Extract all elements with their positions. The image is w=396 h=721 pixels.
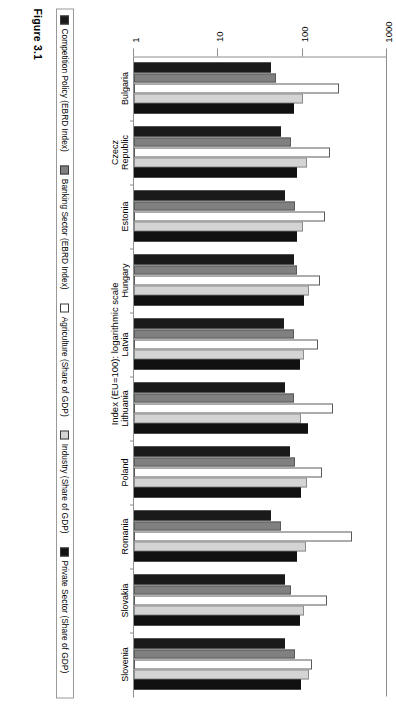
bar-agriculture-share-of-gdp-bulgaria — [134, 83, 339, 93]
bar-private-sector-share-of-gdp-lithuania — [134, 423, 308, 433]
axis-tick-label-text: 10 — [214, 31, 225, 42]
legend-item-label: Industry (Share of GDP) — [60, 443, 70, 533]
axis-tick-label-text: 100 — [299, 26, 310, 42]
legend-item-label: Agriculture (Share of GDP) — [60, 316, 70, 416]
category-label-text: Estonia — [120, 181, 130, 251]
bar-competition-policy-ebrd-index-lithuania — [134, 382, 285, 392]
legend-swatch-icon — [61, 547, 70, 556]
category-label-lithuania: Lithuania — [120, 373, 130, 443]
category-separator — [130, 376, 134, 377]
bar-private-sector-share-of-gdp-czecz-republic — [134, 167, 297, 177]
category-label-slovenia: Slovenia — [120, 629, 130, 699]
bar-competition-policy-ebrd-index-poland — [134, 446, 290, 456]
legend-item-label: Private Sector (Share of GDP) — [60, 560, 70, 673]
legend-swatch-icon — [61, 165, 70, 174]
legend-item-industry-share-of-gdp[interactable]: Industry (Share of GDP) — [60, 430, 70, 533]
bar-banking-sector-ebrd-index-poland — [134, 457, 295, 467]
bar-competition-policy-ebrd-index-hungary — [134, 254, 294, 264]
bar-industry-share-of-gdp-slovenia — [134, 669, 309, 679]
bar-competition-policy-ebrd-index-latvia — [134, 318, 284, 328]
bar-competition-policy-ebrd-index-bulgaria — [134, 62, 271, 72]
category-label-text: Lithuania — [120, 373, 130, 443]
category-separator — [130, 120, 134, 121]
axis-tick-label-text: 1 — [130, 37, 141, 42]
category-label-text: Bulgaria — [120, 53, 130, 123]
legend-item-private-sector-share-of-gdp[interactable]: Private Sector (Share of GDP) — [60, 547, 70, 673]
bar-industry-share-of-gdp-lithuania — [134, 413, 301, 423]
bar-competition-policy-ebrd-index-estonia — [134, 190, 285, 200]
bar-private-sector-share-of-gdp-slovenia — [134, 679, 301, 689]
category-separator — [130, 184, 134, 185]
value-axis-title-text: Index (EU=100): logarithmic scale — [109, 282, 120, 425]
bar-industry-share-of-gdp-slovakia — [134, 605, 304, 615]
category-separator — [130, 440, 134, 441]
bar-private-sector-share-of-gdp-latvia — [134, 359, 300, 369]
axis-tick-label: 10 — [214, 2, 225, 42]
legend-swatch-icon — [61, 303, 70, 312]
bar-industry-share-of-gdp-latvia — [134, 349, 304, 359]
bar-banking-sector-ebrd-index-slovakia — [134, 585, 291, 595]
bar-private-sector-share-of-gdp-bulgaria — [134, 103, 294, 113]
bar-agriculture-share-of-gdp-latvia — [134, 339, 318, 349]
axis-tick-mark — [133, 48, 134, 56]
figure-rotation-wrapper: 1000100101 BulgariaRepublicCzeczEstoniaH… — [0, 0, 396, 721]
category-label-latvia: Latvia — [120, 309, 130, 379]
bar-industry-share-of-gdp-romania — [134, 541, 306, 551]
category-separator — [130, 568, 134, 569]
category-label-text: Latvia — [120, 309, 130, 379]
bar-agriculture-share-of-gdp-lithuania — [134, 403, 333, 413]
bar-banking-sector-ebrd-index-bulgaria — [134, 73, 276, 83]
category-label-text: Romania — [120, 501, 130, 571]
legend-item-competition-policy-ebrd-index[interactable]: Competition Policy (EBRD Index) — [60, 15, 70, 151]
category-label-text: Poland — [120, 437, 130, 507]
axis-tick-mark — [302, 48, 303, 56]
axis-tick-mark — [386, 48, 387, 56]
bar-banking-sector-ebrd-index-estonia — [134, 201, 295, 211]
value-axis-title: Index (EU=100): logarithmic scale — [109, 8, 120, 698]
bar-private-sector-share-of-gdp-romania — [134, 551, 297, 561]
bar-banking-sector-ebrd-index-czecz-republic — [134, 137, 291, 147]
bar-banking-sector-ebrd-index-latvia — [134, 329, 294, 339]
figure-3-1: 1000100101 BulgariaRepublicCzeczEstoniaH… — [0, 0, 396, 721]
bar-industry-share-of-gdp-czecz-republic — [134, 157, 307, 167]
category-label-estonia: Estonia — [120, 181, 130, 251]
category-separator — [130, 248, 134, 249]
legend-item-label: Banking Sector (EBRD Index) — [60, 178, 70, 289]
bar-competition-policy-ebrd-index-romania — [134, 510, 271, 520]
bar-agriculture-share-of-gdp-romania — [134, 531, 352, 541]
axis-tick-label-text: 1000 — [383, 21, 394, 42]
legend-swatch-icon — [61, 15, 70, 24]
category-separator — [130, 504, 134, 505]
legend-item-agriculture-share-of-gdp[interactable]: Agriculture (Share of GDP) — [60, 303, 70, 416]
category-label-text: Slovenia — [120, 629, 130, 699]
bar-agriculture-share-of-gdp-czecz-republic — [134, 147, 330, 157]
bar-banking-sector-ebrd-index-slovenia — [134, 649, 295, 659]
bar-industry-share-of-gdp-bulgaria — [134, 93, 303, 103]
bar-competition-policy-ebrd-index-czecz-republic — [134, 126, 281, 136]
axis-tick-label: 1000 — [383, 2, 394, 42]
category-label-poland: Poland — [120, 437, 130, 507]
category-label-slovakia: Slovakia — [120, 565, 130, 635]
axis-tick-label: 100 — [299, 2, 310, 42]
bar-banking-sector-ebrd-index-lithuania — [134, 393, 294, 403]
category-label-bulgaria: Bulgaria — [120, 53, 130, 123]
figure-caption: Figure 3.1 — [32, 8, 44, 60]
bar-banking-sector-ebrd-index-romania — [134, 521, 281, 531]
bar-agriculture-share-of-gdp-estonia — [134, 211, 325, 221]
bar-private-sector-share-of-gdp-hungary — [134, 295, 304, 305]
bar-agriculture-share-of-gdp-slovenia — [134, 659, 312, 669]
bar-agriculture-share-of-gdp-poland — [134, 467, 322, 477]
bar-banking-sector-ebrd-index-hungary — [134, 265, 297, 275]
bar-competition-policy-ebrd-index-slovakia — [134, 574, 285, 584]
category-label-hungary: Hungary — [120, 245, 130, 315]
axis-tick-label: 1 — [130, 2, 141, 42]
bar-private-sector-share-of-gdp-poland — [134, 487, 301, 497]
chart-legend: Competition Policy (EBRD Index)Banking S… — [56, 8, 74, 698]
category-label-text: Slovakia — [120, 565, 130, 635]
category-label-text: Republic — [120, 117, 130, 187]
legend-item-banking-sector-ebrd-index[interactable]: Banking Sector (EBRD Index) — [60, 165, 70, 289]
bar-private-sector-share-of-gdp-slovakia — [134, 615, 300, 625]
legend-item-label: Competition Policy (EBRD Index) — [60, 28, 70, 151]
axis-tick-mark — [217, 48, 218, 56]
category-label-text: Hungary — [120, 245, 130, 315]
